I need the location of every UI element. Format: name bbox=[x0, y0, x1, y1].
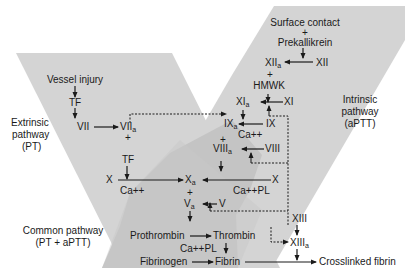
factor-va: Va bbox=[184, 198, 195, 209]
factor-x-left: X bbox=[106, 174, 113, 185]
plus-xiia-hmwk: + bbox=[267, 69, 273, 80]
prothrombin: Prothrombin bbox=[130, 230, 184, 241]
factor-xiia: XIIa bbox=[265, 57, 281, 68]
thrombin: Thrombin bbox=[213, 230, 255, 241]
extrinsic-label-1: Extrinsic bbox=[11, 117, 49, 128]
common-label-1: Common pathway bbox=[23, 225, 104, 236]
tissue-factor-2: TF bbox=[122, 154, 134, 165]
calcium-ix: Ca++ bbox=[238, 129, 262, 140]
common-label-2: (PT + aPTT) bbox=[35, 237, 90, 248]
fibrinogen: Fibrinogen bbox=[140, 256, 187, 267]
extrinsic-label-3: (PT) bbox=[22, 141, 41, 152]
factor-xa: Xa bbox=[185, 174, 196, 185]
factor-viii: VIII bbox=[265, 143, 280, 154]
factor-ix: IX bbox=[266, 118, 275, 129]
factor-xiii: XIII bbox=[292, 213, 307, 224]
fibrin: Fibrin bbox=[215, 256, 240, 267]
tissue-factor-1: TF bbox=[69, 97, 81, 108]
factor-x-right: X bbox=[272, 174, 279, 185]
factor-viiia: VIIIa bbox=[213, 143, 232, 154]
calcium-phospholipid-bottom: Ca++PL bbox=[180, 243, 217, 254]
vessel-injury: Vessel injury bbox=[47, 74, 103, 85]
factor-xia: XIa bbox=[236, 96, 249, 107]
factor-ixa: IXa bbox=[224, 118, 237, 129]
factor-xiiia: XIIIa bbox=[290, 237, 309, 248]
factor-xii: XII bbox=[316, 57, 328, 68]
crosslinked-fibrin: Crosslinked fibrin bbox=[319, 256, 396, 267]
factor-v: V bbox=[219, 198, 226, 209]
calcium-left: Ca++ bbox=[120, 185, 144, 196]
intrinsic-label-2: pathway bbox=[341, 106, 378, 117]
extrinsic-label-2: pathway bbox=[12, 129, 49, 140]
prekallikrein: Prekallikrein bbox=[278, 37, 332, 48]
calcium-phospholipid-right: Ca++PL bbox=[233, 185, 270, 196]
hmwk: HMWK bbox=[253, 80, 285, 91]
intrinsic-label-1: Intrinsic bbox=[343, 94, 377, 105]
plus-xa-va: + bbox=[187, 187, 193, 198]
plus-viia-tf: + bbox=[125, 132, 131, 143]
intrinsic-label-3: (aPTT) bbox=[344, 118, 375, 129]
factor-vii: VII bbox=[77, 121, 89, 132]
factor-xi: XI bbox=[284, 96, 293, 107]
factor-viia: VIIa bbox=[120, 121, 136, 132]
